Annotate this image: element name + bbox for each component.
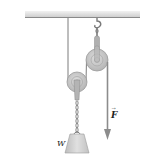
chain [74, 101, 80, 135]
force-label: F [110, 110, 118, 120]
hook-icon [95, 18, 101, 36]
ceiling [25, 11, 140, 18]
pulley-diagram: W F → [0, 0, 143, 161]
force-vector-arrow-icon: → [112, 105, 116, 111]
applied-force-arrow [104, 62, 111, 140]
weight-block [65, 134, 89, 153]
weight-label: W [57, 139, 66, 148]
movable-lower-pulley [67, 72, 87, 100]
fixed-upper-pulley [86, 36, 108, 71]
